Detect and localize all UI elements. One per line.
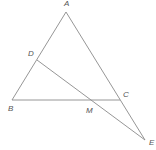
label-m: M (86, 106, 93, 115)
label-d: D (28, 49, 34, 58)
segment-ab (12, 12, 66, 100)
label-c: C (123, 90, 129, 99)
label-b: B (8, 104, 14, 113)
geometry-diagram: A D B C M E (0, 0, 156, 150)
label-e: E (149, 138, 155, 147)
label-a: A (63, 0, 69, 8)
segment-ae (66, 12, 145, 140)
